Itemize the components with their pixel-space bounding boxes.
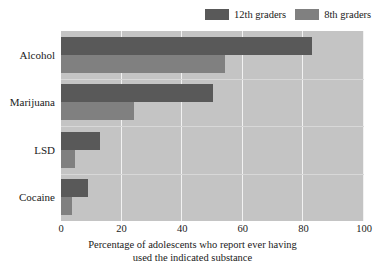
- bar-alcohol-8th-graders: [61, 55, 225, 73]
- bar-chart-figure: 12th graders 8th graders AlcoholMarijuan…: [0, 0, 385, 272]
- x-axis-title-line2: used the indicated substance: [0, 251, 385, 264]
- bar-lsd-8th-graders: [61, 150, 75, 168]
- bar-marijuana-8th-graders: [61, 102, 134, 120]
- group-separator-alcohol: [61, 79, 364, 80]
- chart-legend: 12th graders 8th graders: [205, 6, 371, 22]
- legend-entry-12th-graders: 12th graders: [205, 9, 286, 20]
- y-axis-label-cocaine: Cocaine: [19, 191, 55, 203]
- y-axis-label-alcohol: Alcohol: [20, 49, 55, 61]
- bar-alcohol-12th-graders: [61, 37, 312, 55]
- legend-swatch-8th-graders: [295, 9, 319, 20]
- x-tick-80: 80: [298, 223, 309, 235]
- bar-lsd-12th-graders: [61, 132, 100, 150]
- bar-cocaine-12th-graders: [61, 179, 88, 197]
- x-axis-title-line1: Percentage of adolescents who report eve…: [0, 238, 385, 251]
- bar-marijuana-12th-graders: [61, 84, 213, 102]
- legend-swatch-12th-graders: [205, 9, 229, 20]
- x-tick-40: 40: [177, 223, 188, 235]
- legend-label-8th-graders: 8th graders: [324, 9, 371, 20]
- x-tick-0: 0: [58, 223, 63, 235]
- plot-area: [61, 31, 364, 221]
- y-axis-label-lsd: LSD: [34, 144, 55, 156]
- x-tick-60: 60: [238, 223, 249, 235]
- legend-entry-8th-graders: 8th graders: [295, 9, 371, 20]
- bar-cocaine-8th-graders: [61, 197, 72, 215]
- y-axis-category-labels: AlcoholMarijuanaLSDCocaine: [0, 31, 57, 221]
- x-axis-title: Percentage of adolescents who report eve…: [0, 238, 385, 264]
- x-tick-100: 100: [356, 223, 372, 235]
- group-separator-lsd: [61, 174, 364, 175]
- y-axis-label-marijuana: Marijuana: [10, 96, 55, 108]
- x-tick-20: 20: [116, 223, 127, 235]
- x-axis-tick-labels: 020406080100: [61, 221, 364, 237]
- legend-label-12th-graders: 12th graders: [234, 9, 286, 20]
- group-separator-marijuana: [61, 126, 364, 127]
